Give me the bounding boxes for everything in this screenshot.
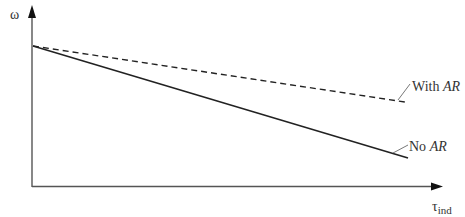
no-ar-label-prefix: No xyxy=(409,139,430,154)
with-ar-label-italic: AR xyxy=(442,79,461,94)
x-axis-label-subscript: ind xyxy=(438,204,453,216)
no-ar-leader-line xyxy=(393,145,408,153)
no-ar-label: No AR xyxy=(409,139,447,154)
series-no-ar: No AR xyxy=(33,46,447,158)
with-ar-label: With AR xyxy=(412,79,460,94)
series-with-ar: With AR xyxy=(33,46,460,102)
no-ar-line xyxy=(33,46,408,158)
no-ar-label-italic: AR xyxy=(429,139,448,154)
with-ar-leader-line xyxy=(398,84,410,100)
with-ar-line xyxy=(33,46,405,102)
with-ar-label-prefix: With xyxy=(412,79,443,94)
y-axis-label: ω xyxy=(10,7,19,22)
y-axis-arrow-icon xyxy=(28,5,36,18)
y-axis: ω xyxy=(10,5,36,187)
x-axis-arrow-icon xyxy=(431,183,443,191)
x-axis: τind xyxy=(32,183,452,217)
x-axis-label: τind xyxy=(432,199,452,216)
speed-torque-diagram: ω τind With AR No AR xyxy=(0,0,465,217)
